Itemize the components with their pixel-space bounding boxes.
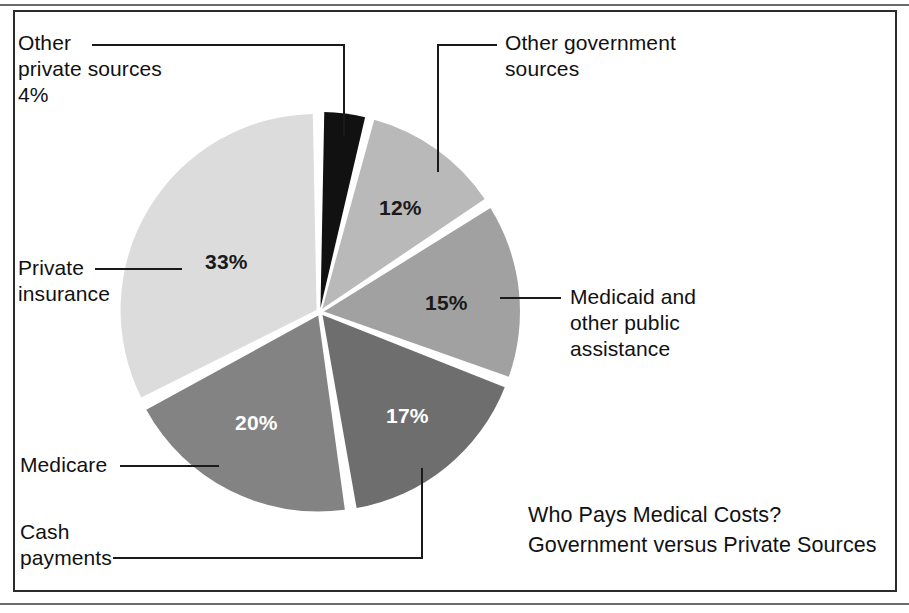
slice-label-private-insurance: 33% [205,250,248,274]
slice-label-medicaid: 15% [425,291,468,315]
leader-cash-vertical [421,468,423,559]
figure-title-line2: Government versus Private Sources [528,533,877,557]
leader-other-government-horizontal [437,44,497,46]
callout-cash-line1: Cash [20,520,69,543]
callout-medicaid-line3: assistance [570,337,670,360]
callout-other-private-line3: 4% [18,83,49,106]
callout-private-insurance-line1: Private [18,256,84,279]
slice-label-other-government: 12% [379,196,422,220]
leader-other-government-vertical [437,44,439,172]
callout-cash-payments: Cashpayments [20,519,112,571]
callout-other-private-sources: Otherprivate sources4% [18,30,162,108]
slice-label-medicare: 20% [235,411,278,435]
leader-medicare [120,465,219,467]
slice-label-cash-payments: 17% [386,404,429,428]
callout-other-private-line2: private sources [18,57,162,80]
callout-other-government-sources: Other governmentsources [505,30,676,82]
callout-other-government-line1: Other government [505,31,676,54]
callout-other-government-line2: sources [505,57,579,80]
callout-medicare: Medicare [20,452,107,478]
leader-cash-horizontal [113,557,423,559]
figure-root: Otherprivate sources4% Other governments… [0,0,909,613]
callout-medicaid-line1: Medicaid and [570,285,696,308]
callout-medicare-line1: Medicare [20,453,107,476]
leader-medicaid [500,297,561,299]
callout-medicaid: Medicaid andother publicassistance [570,284,696,362]
figure-title: Who Pays Medical Costs?Government versus… [528,500,877,560]
leader-other-private-vertical [343,44,345,136]
callout-private-insurance: Privateinsurance [18,255,110,307]
callout-cash-line2: payments [20,546,112,569]
callout-other-private-line1: Other [18,31,71,54]
callout-medicaid-line2: other public [570,311,680,334]
figure-title-line1: Who Pays Medical Costs? [528,503,781,527]
callout-private-insurance-line2: insurance [18,282,110,305]
